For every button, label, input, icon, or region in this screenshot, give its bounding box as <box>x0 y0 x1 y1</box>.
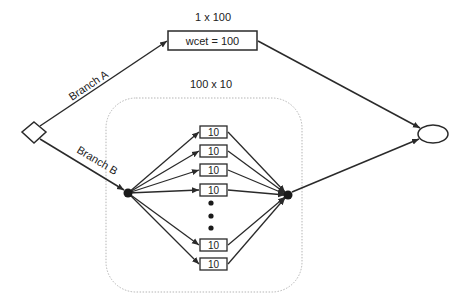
sink-ellipse-node <box>418 125 448 143</box>
fork-junction-node <box>124 189 133 198</box>
fan-in-edges <box>228 132 285 264</box>
parallel-task-node: 10 <box>200 164 227 176</box>
parallel-task-node: 10 <box>200 126 227 138</box>
join-junction-node <box>284 191 293 200</box>
branch-a-label: Branch A <box>66 67 110 102</box>
parallel-task-node: 10 <box>200 145 227 157</box>
parallel-task-node: 10 <box>200 184 227 196</box>
edge-join-to-sink <box>292 139 419 192</box>
dag-diagram: 1 x 100 100 x 10 wcet = 100 10 10 <box>0 0 461 307</box>
task-label: 10 <box>208 146 220 157</box>
group-multiplicity-label: 100 x 10 <box>190 78 232 90</box>
task-node-wcet-100: wcet = 100 <box>168 31 257 50</box>
fan-out-edges <box>128 132 199 264</box>
task-label: 10 <box>208 165 220 176</box>
edge-branch-a <box>40 41 167 126</box>
task-label: 10 <box>208 240 220 251</box>
branch-b-label: Branch B <box>75 143 120 177</box>
task-label: 10 <box>208 127 220 138</box>
parallel-task-node: 10 <box>200 258 227 270</box>
parallel-task-node: 10 <box>200 239 227 251</box>
task-label: 10 <box>208 185 220 196</box>
ellipsis-dots-icon <box>208 200 213 230</box>
task-node-wcet-100-label: wcet = 100 <box>185 35 240 47</box>
task-label: 10 <box>208 259 220 270</box>
edge-top-to-sink <box>258 41 420 128</box>
top-multiplicity-label: 1 x 100 <box>195 11 231 23</box>
